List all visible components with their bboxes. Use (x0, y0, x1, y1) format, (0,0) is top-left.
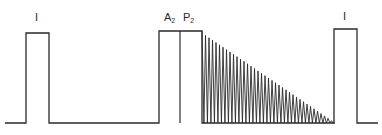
label-a2: A2 (164, 12, 175, 24)
label-p2: P2 (183, 12, 194, 24)
decaying-sawtooth (202, 31, 335, 123)
label-last-pulse: I (343, 11, 346, 22)
baseline-and-pulses (5, 29, 378, 123)
label-first-pulse: I (35, 12, 38, 23)
